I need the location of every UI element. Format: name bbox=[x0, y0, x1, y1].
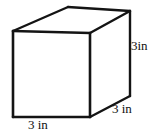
cube-drawing bbox=[0, 0, 161, 136]
dimension-label-depth: 3 in bbox=[112, 102, 132, 115]
dimension-label-width: 3 in bbox=[28, 118, 48, 131]
dimension-label-height: 3in bbox=[131, 39, 148, 52]
cube-figure: 3in 3 in 3 in bbox=[0, 0, 161, 136]
cube-front-face bbox=[13, 31, 90, 117]
